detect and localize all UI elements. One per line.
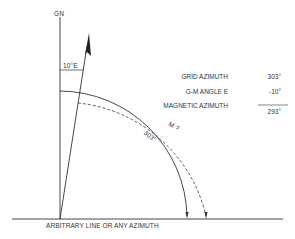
declination-label: 10°E	[63, 62, 78, 69]
azimuth-diagram	[0, 0, 295, 239]
calc-label-gm-angle: G-M ANGLE E	[186, 88, 228, 95]
calc-value-gm-angle: -10°	[269, 88, 281, 95]
baseline-label: ARBITRARY LINE OR ANY AZIMUTH	[46, 222, 159, 229]
calc-label-magnetic-azimuth: MAGNETIC AZIMUTH	[163, 102, 228, 109]
magnetic-azimuth-arc	[78, 103, 206, 216]
calc-value-magnetic-azimuth: 293°	[268, 108, 281, 115]
calc-label-grid-azimuth: GRID AZIMUTH	[181, 73, 228, 80]
magnetic-north-arrow-icon	[85, 33, 91, 56]
magnetic-north-line	[60, 46, 87, 219]
magnetic-arc-arrowhead-icon	[205, 212, 208, 219]
grid-north-label: GN	[54, 10, 64, 17]
grid-azimuth-arc	[60, 91, 187, 216]
grid-arc-arrowhead-icon	[186, 212, 189, 219]
calc-value-grid-azimuth: 303°	[268, 73, 281, 80]
